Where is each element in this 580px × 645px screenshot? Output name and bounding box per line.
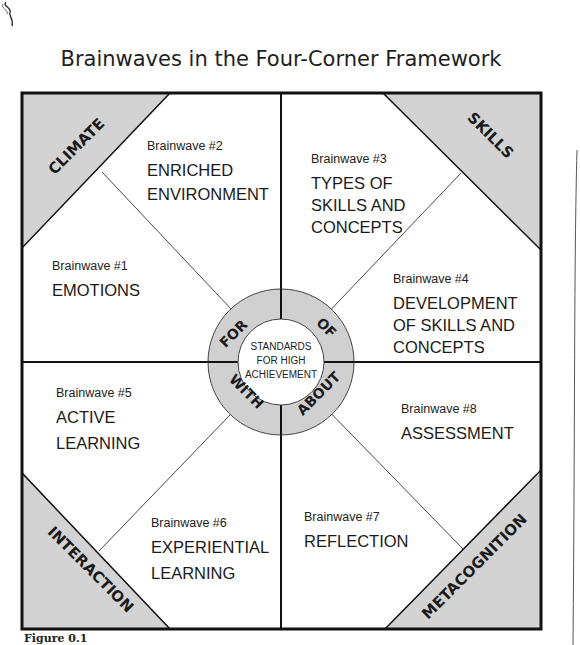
brainwave-7-line-1: REFLECTION: [304, 532, 409, 550]
brainwave-3-line-2: SKILLS AND: [311, 196, 406, 214]
brainwave-1-line-1: EMOTIONS: [52, 281, 140, 299]
center-text-line-1: STANDARDS: [251, 341, 312, 352]
page-edge: [573, 150, 577, 645]
brainwave-7-label: Brainwave #7: [304, 510, 380, 524]
brainwave-4-label: Brainwave #4: [393, 272, 469, 286]
brainwave-5-line-2: LEARNING: [56, 434, 140, 452]
figure-caption: Figure 0.1: [24, 632, 87, 645]
brainwave-3-line-1: TYPES OF: [311, 174, 393, 192]
brainwave-3-label: Brainwave #3: [311, 152, 387, 166]
brainwave-6-line-1: EXPERIENTIAL: [151, 538, 269, 556]
center-text-line-2: FOR HIGH: [257, 355, 306, 366]
brainwave-8-line-1: ASSESSMENT: [401, 424, 514, 442]
brainwave-1-label: Brainwave #1: [52, 259, 128, 273]
brainwave-6-label: Brainwave #6: [151, 516, 227, 530]
brainwave-6-line-2: LEARNING: [151, 564, 235, 582]
four-corner-framework-diagram: FOR OF WITH ABOUT STANDARDS FOR HIGH ACH…: [0, 0, 580, 645]
brainwave-2-line-2: ENVIRONMENT: [147, 185, 269, 203]
brainwave-4-line-1: DEVELOPMENT: [393, 294, 518, 312]
center-text-line-3: ACHIEVEMENT: [245, 369, 317, 380]
brainwave-2-line-1: ENRICHED: [147, 161, 233, 179]
brainwave-3-line-3: CONCEPTS: [311, 218, 403, 236]
brainwave-2-label: Brainwave #2: [147, 139, 223, 153]
brainwave-5-label: Brainwave #5: [56, 386, 132, 400]
brainwave-4-line-2: OF SKILLS AND: [393, 316, 515, 334]
brainwave-8-label: Brainwave #8: [401, 402, 477, 416]
brainwave-5-line-1: ACTIVE: [56, 408, 116, 426]
brainwave-4-line-3: CONCEPTS: [393, 338, 485, 356]
